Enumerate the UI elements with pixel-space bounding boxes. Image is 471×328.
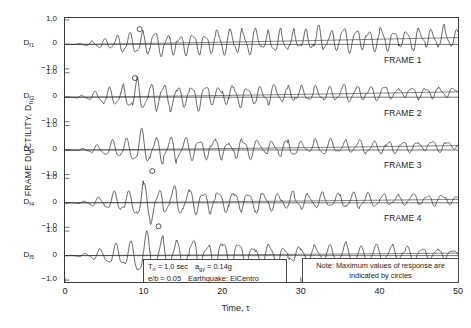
- eccentricity-value: e/b = 0.05: [148, 274, 181, 283]
- y-tick-label: 1.0: [46, 121, 57, 129]
- note-annotation-box: Note: Maximum values of response are ind…: [302, 258, 459, 283]
- max-marker-frame-1: [137, 27, 142, 32]
- plot-area: FRAME 1FRAME 2FRAME 3FRAME 4FRAME 5: [64, 17, 459, 283]
- y-tick-label: 1.0: [46, 173, 57, 181]
- parameters-line-1: Tn = 1.0 secagy = 0.14g: [148, 262, 282, 274]
- x-tick-label: 0: [45, 287, 85, 296]
- response-curve-frame-2: [65, 77, 458, 112]
- earthquake-value: Earthquake: ElCentro: [188, 274, 259, 283]
- response-curve-frame-1: [65, 24, 458, 57]
- max-marker-frame-3: [150, 169, 155, 174]
- y-tick-label: −1.0: [41, 275, 57, 283]
- x-tick-label: 40: [359, 287, 399, 296]
- response-curve-frame-3: [65, 128, 458, 164]
- frame-label-frame-1: FRAME 1: [384, 56, 422, 64]
- chart-figure: FRAME DUCTILITY, Dfi Df11.00−1.0Df21.00−…: [0, 0, 471, 328]
- panel-axis-subscript: f2: [29, 95, 34, 101]
- y-axis-panel-label-frame-2: Df2: [24, 92, 34, 102]
- y-axis-panel-label-frame-5: Df5: [24, 251, 34, 261]
- y-tick-label: 0: [53, 39, 57, 47]
- y-tick-label: 0: [53, 92, 57, 100]
- y-tick-label: 1.0: [46, 226, 57, 234]
- frame-label-frame-2: FRAME 2: [384, 109, 422, 117]
- y-tick-label: 1.0: [46, 68, 57, 76]
- period-subscript: n: [153, 266, 156, 272]
- x-tick-label: 20: [202, 287, 242, 296]
- accel-subscript: gy: [199, 266, 205, 272]
- panel-axis-subscript: f1: [29, 42, 34, 48]
- drift-line-frame-4: [65, 199, 458, 202]
- x-tick-label: 50: [438, 287, 471, 296]
- note-line-1: Note: Maximum values of response are: [307, 261, 454, 271]
- max-marker-frame-4: [156, 224, 161, 229]
- y-tick-label: 0: [53, 251, 57, 259]
- parameters-annotation-box: Tn = 1.0 secagy = 0.14g e/b = 0.05Earthq…: [143, 259, 287, 283]
- panel-axis-subscript: f3: [29, 148, 34, 154]
- frame-label-frame-3: FRAME 3: [384, 161, 422, 169]
- period-value: = 1.0 sec: [158, 262, 188, 271]
- x-tick-label: 10: [124, 287, 164, 296]
- panel-axis-subscript: f4: [29, 200, 34, 206]
- y-axis-panel-label-frame-1: Df1: [24, 39, 34, 49]
- y-axis-panel-label-frame-4: Df4: [24, 198, 34, 208]
- x-axis-title: Time, τ: [0, 303, 471, 313]
- y-tick-label: 1.0: [46, 15, 57, 23]
- y-axis-labels: Df11.00−1.0Df21.00−1.0Df31.00−1.0Df41.00…: [0, 0, 64, 328]
- drift-line-frame-5: [65, 253, 458, 255]
- x-axis-title-text: Time, τ: [221, 303, 249, 313]
- panel-axis-subscript: f5: [29, 253, 34, 259]
- y-tick-label: 0: [53, 145, 57, 153]
- x-tick-label: 30: [281, 287, 321, 296]
- frame-label-frame-4: FRAME 4: [384, 214, 422, 222]
- drift-line-frame-2: [65, 92, 458, 97]
- y-axis-panel-label-frame-3: Df3: [24, 145, 34, 155]
- y-tick-label: 0: [53, 198, 57, 206]
- note-line-2: indicated by circles: [307, 271, 454, 281]
- drift-line-frame-1: [65, 38, 458, 45]
- accel-value: = 0.14g: [207, 262, 232, 271]
- parameters-line-2: e/b = 0.05Earthquake: ElCentro: [148, 274, 282, 284]
